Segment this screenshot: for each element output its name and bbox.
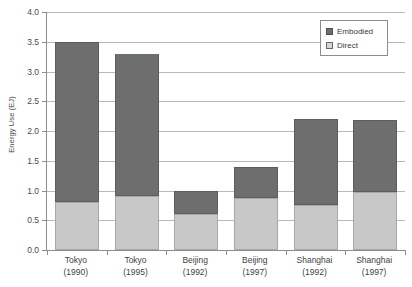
energy-use-stacked-bar-chart: Energy Use (EJ) 0.00.51.01.52.02.53.03.5… xyxy=(0,0,412,287)
y-axis-tick-label: 3.0 xyxy=(27,67,39,77)
x-axis-label-beijing-1992: Beijing(1992) xyxy=(165,255,225,278)
x-axis-labels: Tokyo(1990)Tokyo(1995)Beijing(1992)Beiji… xyxy=(46,255,404,287)
y-axis-title: Energy Use (EJ) xyxy=(7,75,16,175)
y-axis-tick-label: 0.0 xyxy=(27,245,39,255)
legend-item-direct: Direct xyxy=(326,39,387,52)
legend-swatch-direct-icon xyxy=(326,42,333,49)
x-axis-label-tokyo-1995: Tokyo(1995) xyxy=(106,255,166,278)
y-axis-tick-label: 3.5 xyxy=(27,37,39,47)
y-axis-tick-label: 2.0 xyxy=(27,126,39,136)
bar-segment-direct xyxy=(294,205,338,250)
bar-tokyo-1990 xyxy=(55,12,99,250)
bar-beijing-1997 xyxy=(234,12,278,250)
x-axis-label-tokyo-1990: Tokyo(1990) xyxy=(46,255,106,278)
legend-label-direct: Direct xyxy=(337,41,358,50)
bar-segment-direct xyxy=(55,202,99,250)
x-axis-tick xyxy=(405,250,406,255)
x-axis-label-shanghai-1997: Shanghai(1997) xyxy=(344,255,404,278)
x-axis-label-beijing-1997: Beijing(1997) xyxy=(225,255,285,278)
bar-segment-direct xyxy=(234,198,278,250)
x-axis-label-shanghai-1992: Shanghai(1992) xyxy=(285,255,345,278)
legend-swatch-embodied-icon xyxy=(326,28,333,35)
bar-segment-embodied xyxy=(174,191,218,215)
bar-segment-direct xyxy=(115,196,159,250)
bar-segment-embodied xyxy=(294,119,338,205)
bar-segment-embodied xyxy=(234,167,278,199)
y-axis-tick-label: 2.5 xyxy=(27,96,39,106)
legend-label-embodied: Embodied xyxy=(337,27,373,36)
bar-segment-direct xyxy=(174,214,218,250)
bar-beijing-1992 xyxy=(174,12,218,250)
bar-segment-embodied xyxy=(115,54,159,197)
y-axis-tick-label: 1.0 xyxy=(27,186,39,196)
bar-segment-direct xyxy=(353,192,397,250)
bar-segment-embodied xyxy=(55,42,99,203)
bar-segment-embodied xyxy=(353,120,397,192)
legend-item-embodied: Embodied xyxy=(326,25,387,38)
y-axis-tick-label: 1.5 xyxy=(27,156,39,166)
bar-tokyo-1995 xyxy=(115,12,159,250)
y-axis-tick-label: 0.5 xyxy=(27,215,39,225)
y-axis-tick-label: 4.0 xyxy=(27,7,39,17)
chart-legend: Embodied Direct xyxy=(320,20,388,56)
